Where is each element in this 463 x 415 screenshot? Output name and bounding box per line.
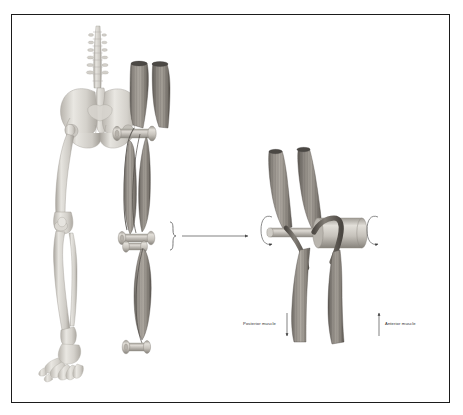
lower-leg-muscle	[134, 248, 151, 345]
muscle-cone-left	[269, 149, 292, 230]
magnified-joint-detail	[261, 147, 379, 344]
illustration-canvas	[0, 0, 463, 415]
curly-brace	[170, 222, 176, 250]
skeleton-group	[39, 26, 138, 382]
descending-muscle-anterior	[328, 250, 344, 344]
rotation-arrow-right	[367, 216, 378, 244]
ankle-spool	[122, 340, 150, 354]
descending-muscle-posterior	[292, 248, 310, 342]
lumbar-spine	[86, 26, 108, 88]
patella	[58, 217, 66, 227]
posterior-muscle-label: Posterior muscle	[243, 321, 276, 326]
posterior-thigh-muscle	[139, 137, 151, 232]
knee-spool	[118, 231, 155, 252]
upper-muscle-cone-left	[130, 61, 148, 128]
upper-muscle-cone-right	[152, 62, 170, 129]
figure-root: Posterior muscle Anterior muscle	[0, 0, 463, 415]
anterior-muscle-label: Anterior muscle	[385, 321, 416, 326]
magnification-connector	[170, 222, 248, 250]
tibia-fibula	[54, 231, 77, 347]
femur	[54, 124, 76, 233]
foot-bones	[39, 344, 84, 382]
